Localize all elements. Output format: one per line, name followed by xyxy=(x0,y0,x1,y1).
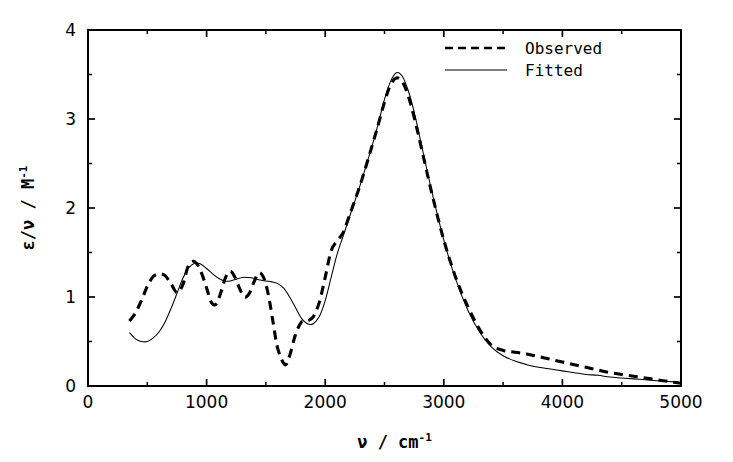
spectrum-chart: 01000200030004000500001234ν / cm-1ε/ν / … xyxy=(0,0,733,462)
y-tick-label: 1 xyxy=(65,287,76,307)
x-tick-label: 5000 xyxy=(659,392,702,412)
y-tick-label: 3 xyxy=(65,109,76,129)
x-tick-label: 1000 xyxy=(185,392,228,412)
x-tick-label: 2000 xyxy=(304,392,347,412)
y-tick-label: 4 xyxy=(65,20,76,40)
chart-figure: 01000200030004000500001234ν / cm-1ε/ν / … xyxy=(0,0,733,462)
y-axis-title: ε/ν / M-1 xyxy=(17,165,38,250)
x-tick-label: 4000 xyxy=(541,392,584,412)
series-fitted xyxy=(130,72,681,382)
y-axis-title-text: ε/ν / M-1 xyxy=(17,165,38,250)
axis-frame xyxy=(88,30,681,386)
x-tick-label: 0 xyxy=(83,392,94,412)
x-tick-label: 3000 xyxy=(422,392,465,412)
legend-label-observed: Observed xyxy=(525,39,602,58)
y-tick-label: 0 xyxy=(65,376,76,396)
y-tick-label: 2 xyxy=(65,198,76,218)
x-axis-title-text: ν / cm-1 xyxy=(357,431,432,452)
x-axis-title: ν / cm-1 xyxy=(357,431,432,452)
legend-label-fitted: Fitted xyxy=(525,61,583,80)
series-observed xyxy=(130,78,681,383)
